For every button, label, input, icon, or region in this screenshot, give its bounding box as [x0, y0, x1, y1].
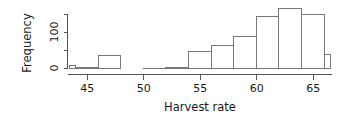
y-axis-title: Frequency — [20, 13, 34, 73]
bar-46-48 — [98, 56, 121, 69]
x-tick-label-45: 45 — [80, 82, 94, 95]
bar-52-54 — [166, 68, 189, 69]
x-tick-label-55: 55 — [193, 82, 207, 95]
y-tick-label-0: 0 — [48, 65, 61, 72]
x-tick-label-50: 50 — [137, 82, 151, 95]
x-tick-label-60: 60 — [250, 82, 264, 95]
histogram-figure: 0 100 Frequency 45 50 55 60 65 Harves — [0, 0, 343, 119]
y-tick-label-100: 100 — [48, 22, 61, 43]
bar-58-60 — [234, 37, 257, 69]
x-tick-label-65: 65 — [306, 82, 320, 95]
histogram-plot: 0 100 Frequency 45 50 55 60 65 Harves — [0, 0, 343, 119]
bar-right-edge — [324, 55, 330, 69]
bar-62-64 — [279, 9, 302, 69]
bar-64-66 — [302, 14, 325, 68]
bar-44-46 — [76, 68, 99, 69]
bar-54-56 — [189, 52, 212, 69]
bar-56-58 — [211, 45, 234, 69]
bar-left-edge — [70, 66, 76, 69]
x-axis-title: Harvest rate — [164, 100, 236, 114]
bar-60-62 — [256, 17, 279, 69]
